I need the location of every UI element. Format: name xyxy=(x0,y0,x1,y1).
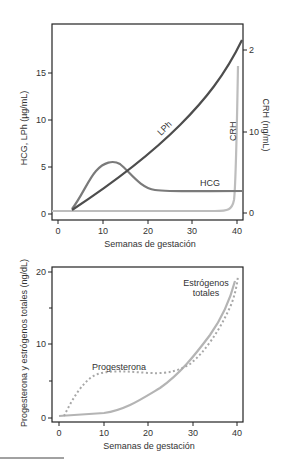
figure: 15 10 5 0 2 10 0 0 10 20 30 40 Semanas d… xyxy=(0,0,291,460)
top-chart: 15 10 5 0 2 10 0 0 10 20 30 40 Semanas d… xyxy=(19,24,271,249)
bottom-x-tick-0: 0 xyxy=(56,428,61,438)
bottom-y-tick-20: 20 xyxy=(36,267,46,277)
top-left-y-axis-label: HCG, LPh (µg/mL) xyxy=(19,91,29,166)
bottom-x-axis xyxy=(59,422,237,426)
top-y-tick-15: 15 xyxy=(36,68,46,78)
bottom-y-tick-0: 0 xyxy=(41,413,46,423)
progesterona-label: Progesterona xyxy=(92,362,146,372)
crh-label: CRH xyxy=(228,122,238,142)
bottom-x-tick-10: 10 xyxy=(99,428,109,438)
estrogenos-label-line1: Estrógenos xyxy=(183,278,229,288)
top-y-tick-5: 5 xyxy=(41,162,46,172)
top-right-y-axis-label: CRH (ng/mL) xyxy=(261,98,271,151)
top-right-tick-0: 0 xyxy=(249,208,254,218)
top-right-tick-2: 2 xyxy=(249,45,254,55)
top-x-tick-30: 30 xyxy=(187,226,197,236)
top-x-tick-20: 20 xyxy=(143,226,153,236)
bottom-x-tick-40: 40 xyxy=(232,428,242,438)
top-y-tick-0: 0 xyxy=(41,209,46,219)
bottom-x-tick-20: 20 xyxy=(143,428,153,438)
estrogenos-label-line2: totales xyxy=(193,288,220,298)
crh-line xyxy=(52,66,238,211)
hcg-label: HCG xyxy=(200,178,220,188)
bottom-y-tick-10: 10 xyxy=(36,339,46,349)
top-x-axis-label: Semanas de gestación xyxy=(104,239,196,249)
top-y-tick-10: 10 xyxy=(36,115,46,125)
top-x-axis xyxy=(58,220,237,224)
bottom-x-tick-30: 30 xyxy=(188,428,198,438)
top-right-tick-10: 10 xyxy=(249,127,259,137)
estrogenos-line xyxy=(59,281,235,416)
bottom-x-axis-label: Semanas de gestación xyxy=(103,441,195,451)
bottom-chart: 20 10 0 0 10 20 30 40 Semanas de gestaci… xyxy=(19,259,243,451)
top-x-tick-0: 0 xyxy=(55,226,60,236)
top-x-tick-40: 40 xyxy=(232,226,242,236)
top-right-y-axis xyxy=(243,50,247,213)
bottom-y-axis-label: Progesterona y estrógenos totales (ng/dL… xyxy=(19,259,29,427)
top-x-tick-10: 10 xyxy=(98,226,108,236)
